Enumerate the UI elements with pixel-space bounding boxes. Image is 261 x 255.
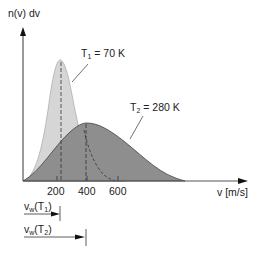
vw-t1-label: vw(T1) <box>24 200 52 213</box>
vw1-arg: (T <box>34 200 44 212</box>
tick-label-200: 200 <box>47 185 65 197</box>
vw2-close: ) <box>48 223 52 235</box>
tick-label-400: 400 <box>78 185 96 197</box>
vw-t1-arrowhead-icon <box>51 212 60 217</box>
tick-label-600: 600 <box>109 185 127 197</box>
y-axis-arrow-icon <box>20 27 26 36</box>
t1-label: T1 = 70 K <box>81 47 125 60</box>
t2-leader-line <box>130 116 143 139</box>
vw2-arg: (T <box>34 223 44 235</box>
x-axis-arrow-icon <box>238 178 248 184</box>
t2-label: T2 = 280 K <box>130 101 180 114</box>
y-axis-label: n(v) dv <box>8 7 40 19</box>
vw1-close: ) <box>48 200 52 212</box>
vw-t2-arrowhead-icon <box>75 235 85 240</box>
maxwell-distribution-plot <box>0 0 261 255</box>
t1-leader-line <box>72 64 88 82</box>
t2-value: = 280 K <box>140 101 179 113</box>
vw-t2-label: vw(T2) <box>24 223 52 236</box>
t1-value: = 70 K <box>91 47 125 59</box>
x-axis-label: v [m/s] <box>217 186 248 198</box>
